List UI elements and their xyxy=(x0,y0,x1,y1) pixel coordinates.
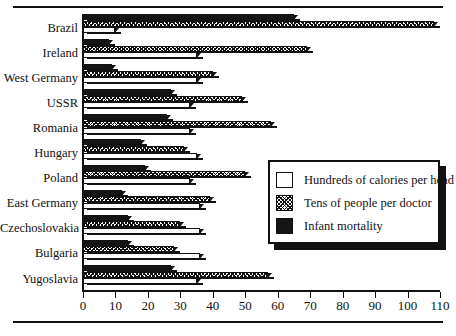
x-tick-label: 30 xyxy=(165,298,195,314)
bar-rect xyxy=(83,171,245,177)
bar-rect xyxy=(83,221,180,227)
legend-item-0: Hundreds of calories per head xyxy=(276,169,454,191)
bar-underside xyxy=(87,107,196,109)
x-tick-label: 70 xyxy=(295,298,325,314)
bar-hungary-tens-of-people-per-doctor xyxy=(0,146,357,152)
x-tick-label: 10 xyxy=(100,298,130,314)
bar-brazil-infant-mortality xyxy=(0,14,357,20)
x-tick-label: 80 xyxy=(328,298,358,314)
legend-item-1: Tens of people per doctor xyxy=(276,192,432,214)
bar-underside xyxy=(87,208,206,210)
bar-rect xyxy=(83,64,112,70)
x-tick-label: 20 xyxy=(133,298,163,314)
bar-rect xyxy=(83,89,171,95)
bar-rect xyxy=(83,196,210,202)
bar-rect xyxy=(83,128,190,134)
bar-west-germany-tens-of-people-per-doctor xyxy=(0,71,357,77)
bar-rect xyxy=(83,21,434,27)
bar-rect xyxy=(83,190,122,196)
legend-label: Tens of people per doctor xyxy=(304,196,432,211)
x-axis-line xyxy=(82,290,440,292)
legend-label: Hundreds of calories per head xyxy=(304,173,454,188)
bar-hungary-infant-mortality xyxy=(0,139,357,145)
bar-rect xyxy=(83,278,197,284)
bar-rect xyxy=(83,27,115,33)
x-tick-label: 90 xyxy=(360,298,390,314)
legend-item-2: Infant mortality xyxy=(276,215,383,237)
bar-underside xyxy=(87,283,203,285)
bar-rect xyxy=(83,71,213,77)
bar-underside xyxy=(87,183,196,185)
bar-rect xyxy=(83,46,307,52)
bar-ireland-hundreds-of-calories-per-head xyxy=(0,52,357,58)
bar-rect xyxy=(83,39,109,45)
bar-rect xyxy=(83,52,197,58)
bottom-rule xyxy=(13,321,443,323)
bar-ussr-tens-of-people-per-doctor xyxy=(0,96,357,102)
bar-rect xyxy=(83,178,190,184)
bar-hungary-hundreds-of-calories-per-head xyxy=(0,153,357,159)
x-tick-label: 50 xyxy=(230,298,260,314)
bar-rect xyxy=(83,246,174,252)
bar-rect xyxy=(83,253,200,259)
bar-bulgaria-hundreds-of-calories-per-head xyxy=(0,253,357,259)
bar-rect xyxy=(83,228,200,234)
bar-rect xyxy=(83,265,171,271)
bar-underside xyxy=(87,82,203,84)
bar-ussr-hundreds-of-calories-per-head xyxy=(0,102,357,108)
legend: Hundreds of calories per headTens of peo… xyxy=(268,160,440,244)
bar-rect xyxy=(83,272,268,278)
bar-rect xyxy=(83,165,145,171)
bar-romania-tens-of-people-per-doctor xyxy=(0,121,357,127)
bar-underside xyxy=(87,133,196,135)
bar-rect xyxy=(83,77,197,83)
bar-yugoslavia-hundreds-of-calories-per-head xyxy=(0,278,357,284)
legend-swatch-dense-checker xyxy=(276,195,293,211)
x-tick-label: 110 xyxy=(425,298,455,314)
x-tick-label: 40 xyxy=(198,298,228,314)
bar-ussr-infant-mortality xyxy=(0,89,357,95)
x-tick-label: 0 xyxy=(68,298,98,314)
bar-underside xyxy=(87,233,206,235)
top-rule xyxy=(13,6,443,8)
bar-brazil-hundreds-of-calories-per-head xyxy=(0,27,357,33)
bar-ireland-infant-mortality xyxy=(0,39,357,45)
bar-brazil-tens-of-people-per-doctor xyxy=(0,21,357,27)
bar-underside xyxy=(87,57,203,59)
bar-yugoslavia-tens-of-people-per-doctor xyxy=(0,272,357,278)
bar-rect xyxy=(83,139,141,145)
figure: BrazilIrelandWest GermanyUSSRRomaniaHung… xyxy=(0,0,456,336)
bar-rect xyxy=(83,14,294,20)
x-tick-label: 100 xyxy=(393,298,423,314)
bar-underside xyxy=(87,258,206,260)
bar-yugoslavia-infant-mortality xyxy=(0,265,357,271)
bar-rect xyxy=(83,153,197,159)
bar-rect xyxy=(83,96,242,102)
bar-rect xyxy=(83,114,167,120)
legend-swatch-solid-black xyxy=(276,218,293,234)
bar-underside xyxy=(87,32,121,34)
legend-label: Infant mortality xyxy=(304,219,383,234)
bar-west-germany-infant-mortality xyxy=(0,64,357,70)
bar-rect xyxy=(83,146,184,152)
bar-rect xyxy=(83,203,200,209)
bar-rect xyxy=(83,121,271,127)
bar-underside xyxy=(87,158,203,160)
legend-swatch-sparse-dots xyxy=(276,172,293,188)
x-tick-label: 60 xyxy=(263,298,293,314)
bar-rect xyxy=(83,102,190,108)
bar-rect xyxy=(83,240,128,246)
bar-rect xyxy=(83,215,128,221)
bar-romania-hundreds-of-calories-per-head xyxy=(0,128,357,134)
bar-ireland-tens-of-people-per-doctor xyxy=(0,46,357,52)
bar-romania-infant-mortality xyxy=(0,114,357,120)
bar-west-germany-hundreds-of-calories-per-head xyxy=(0,77,357,83)
